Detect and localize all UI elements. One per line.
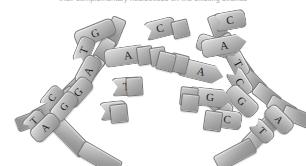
- backbone-segment: [212, 137, 257, 166]
- base-letter: A: [219, 39, 229, 51]
- base-letter: C: [223, 114, 232, 126]
- base-letter: A: [196, 65, 206, 78]
- backbone-segment: [77, 140, 124, 166]
- base-letter: G: [235, 94, 248, 107]
- dna-replication-figure: their complementary nucleotides on the e…: [0, 0, 306, 166]
- phosphate-block: [125, 76, 143, 96]
- base-letter: C: [225, 14, 234, 26]
- base-letter: C: [155, 22, 165, 34]
- base-letter: A: [273, 113, 285, 125]
- phosphate-block: [203, 110, 224, 132]
- base-letter: A: [39, 121, 51, 133]
- figure-caption-fragment: their complementary nucleotides on the e…: [0, 0, 306, 3]
- phosphate-block: [109, 103, 129, 124]
- phosphate-block: [180, 93, 200, 113]
- base-letter: G: [89, 26, 100, 39]
- base-letter: A: [123, 50, 132, 62]
- base-letter: T: [256, 125, 267, 136]
- phosphate-block: [170, 18, 191, 40]
- base-letter: G: [205, 92, 214, 104]
- base-letter: T: [232, 58, 245, 69]
- base-letter: G: [58, 101, 70, 113]
